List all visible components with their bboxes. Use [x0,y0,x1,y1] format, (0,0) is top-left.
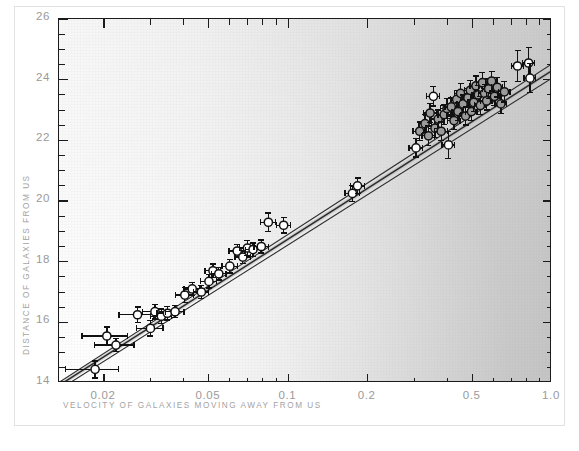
data-point [261,213,276,231]
data-marker [197,288,205,296]
data-point [82,327,127,345]
data-marker [205,277,213,285]
data-point [511,50,523,82]
plot-area [58,18,551,382]
data-marker [133,311,141,319]
data-marker [526,74,534,82]
y-tick-label: 20 [28,192,50,204]
data-marker [103,332,111,340]
data-point [201,275,217,288]
figure-root: DISTANCE OF GALAXIES FROM US 14161820222… [0,0,579,451]
data-marker [215,270,223,278]
data-marker [454,107,462,115]
data-marker [500,88,508,96]
data-point [442,131,454,158]
x-tick-label: 0.1 [265,389,309,401]
data-marker [429,92,437,100]
data-point [276,217,290,233]
data-marker [112,341,120,349]
y-tick-label: 22 [28,131,50,143]
data-point [66,361,119,378]
y-tick-label: 14 [28,374,50,386]
data-marker [163,309,171,317]
data-marker [91,365,99,373]
data-point [409,139,423,157]
x-tick-label: 0.02 [81,389,125,401]
y-tick-label: 16 [28,313,50,325]
data-point [222,260,237,273]
data-marker [264,218,272,226]
x-tick-label: 1.0 [529,389,573,401]
data-marker [280,221,288,229]
data-marker [146,324,154,332]
x-tick-label: 0.05 [186,389,230,401]
data-marker [353,182,361,190]
data-marker [444,141,452,149]
data-marker [226,262,234,270]
y-tick-label: 24 [28,71,50,83]
data-marker [412,144,420,152]
data-marker [437,127,445,135]
data-marker [424,132,432,140]
data-marker [257,242,265,250]
data-marker [239,253,247,261]
x-axis-title: VELOCITY OF GALAXIES MOVING AWAY FROM US [63,401,322,410]
data-point [94,338,134,351]
data-marker [181,291,189,299]
data-point [524,64,536,93]
x-tick-label: 0.2 [345,389,389,401]
y-tick-label: 18 [28,253,50,265]
data-marker [416,127,424,135]
y-tick-label: 26 [28,10,50,22]
data-marker [513,62,521,70]
data-marker [426,109,434,117]
x-tick-label: 0.5 [450,389,494,401]
data-points-layer [59,19,551,382]
data-marker [171,308,179,316]
